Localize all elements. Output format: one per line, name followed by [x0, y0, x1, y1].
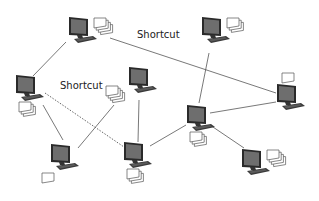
computer-icon — [129, 67, 157, 93]
computer-icon — [277, 84, 305, 110]
computer-node-A — [69, 17, 113, 43]
document-icon — [94, 18, 106, 28]
computer-node-H — [124, 142, 152, 183]
document-icon — [267, 150, 279, 160]
computer-icon — [69, 17, 97, 43]
document-icon — [190, 132, 202, 142]
computer-node-E — [277, 73, 305, 110]
nodes-layer — [16, 17, 305, 183]
computer-node-F — [187, 105, 215, 146]
computer-icon — [187, 105, 215, 131]
computer-node-I — [242, 149, 286, 175]
shortcut-label-left: Shortcut — [60, 80, 103, 91]
edge-C-H — [45, 93, 124, 147]
computer-icon — [51, 144, 79, 170]
computer-node-B — [202, 17, 243, 43]
document-icon — [106, 86, 118, 96]
computer-icon — [16, 75, 44, 101]
edge-H-F — [150, 125, 186, 146]
computer-icon — [242, 149, 270, 175]
document-icon — [227, 18, 239, 28]
edge-G-D — [78, 105, 114, 148]
edge-F-E — [210, 102, 276, 113]
edges-layer — [33, 38, 276, 148]
document-icon — [42, 173, 54, 183]
computer-node-C — [16, 75, 44, 116]
computer-icon — [202, 17, 230, 43]
computer-node-D — [106, 67, 157, 103]
document-icon — [19, 102, 31, 112]
edge-B-F — [199, 53, 209, 103]
computer-icon — [124, 142, 152, 168]
edge-C-G — [43, 105, 63, 140]
edge-A-C — [33, 42, 66, 76]
edge-D-H — [138, 100, 139, 142]
document-icon — [127, 169, 139, 179]
edge-F-I — [210, 125, 244, 148]
computer-node-G — [42, 144, 79, 183]
document-icon — [282, 73, 294, 83]
shortcut-label-top: Shortcut — [137, 29, 180, 40]
